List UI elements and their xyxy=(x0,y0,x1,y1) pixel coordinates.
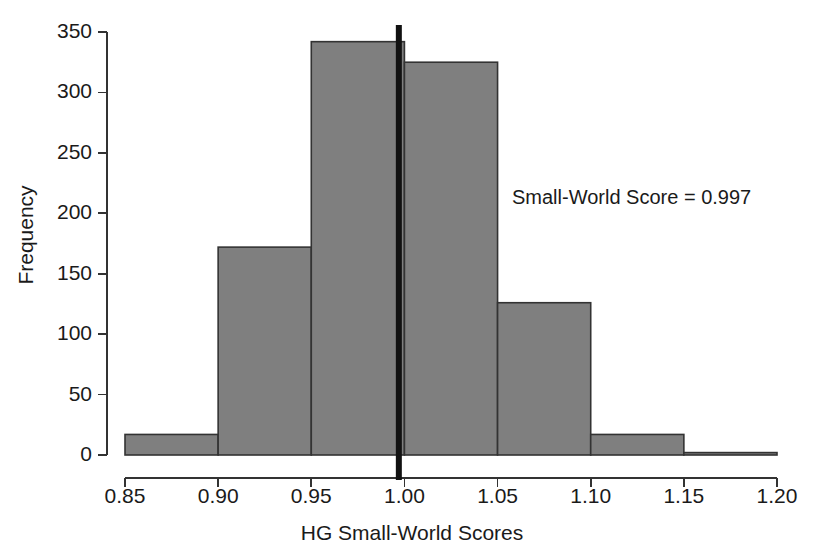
x-axis-tick-label: 0.95 xyxy=(271,484,351,508)
histogram-bar xyxy=(498,303,591,455)
histogram-bar xyxy=(125,434,218,455)
x-axis-tick-label: 1.00 xyxy=(364,484,444,508)
y-axis-tick-label: 200 xyxy=(34,200,92,224)
histogram-bar xyxy=(404,62,497,455)
y-axis-tick-label: 50 xyxy=(34,382,92,406)
bars-group xyxy=(125,42,777,455)
x-axis-tick-label: 0.85 xyxy=(85,484,165,508)
y-axis-tick-label: 0 xyxy=(34,442,92,466)
plot-area xyxy=(0,0,824,558)
y-axis-tick-label: 150 xyxy=(34,261,92,285)
y-axis-tick-label: 300 xyxy=(34,79,92,103)
y-axis-tick-label: 250 xyxy=(34,140,92,164)
x-axis-tick-label: 1.05 xyxy=(458,484,538,508)
y-axis-tick-label: 350 xyxy=(34,19,92,43)
x-axis-tick-label: 1.20 xyxy=(737,484,817,508)
histogram-bar xyxy=(218,247,311,455)
x-axis-tick-label: 0.90 xyxy=(178,484,258,508)
x-axis-tick-label: 1.10 xyxy=(551,484,631,508)
y-axis-tick-label: 100 xyxy=(34,321,92,345)
histogram-bar xyxy=(311,42,404,455)
histogram-bar xyxy=(591,434,684,455)
x-axis-tick-label: 1.15 xyxy=(644,484,724,508)
histogram-bar xyxy=(684,453,777,455)
histogram-figure: Frequency HG Small-World Scores Small-Wo… xyxy=(0,0,824,558)
